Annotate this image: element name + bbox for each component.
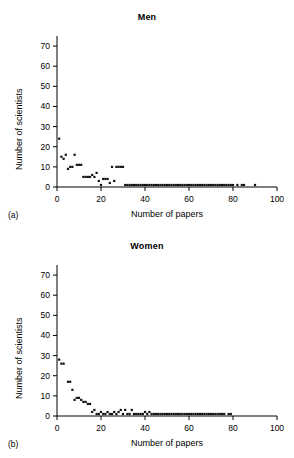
data-point	[184, 413, 186, 415]
chart-panel-women: Women 020406080100010203040506070 Number…	[0, 229, 294, 458]
data-point	[87, 403, 89, 405]
data-point	[65, 154, 67, 156]
data-point	[230, 413, 232, 415]
data-point	[120, 166, 122, 168]
x-tick-label-men: 0	[55, 194, 60, 204]
data-point	[170, 184, 172, 186]
data-point	[221, 184, 223, 186]
data-point	[214, 413, 216, 415]
y-tick-label-men: 70	[41, 41, 51, 51]
data-point	[96, 413, 98, 415]
data-point	[197, 413, 199, 415]
data-point	[78, 397, 80, 399]
data-point	[71, 166, 73, 168]
panel-letter-b: (b)	[8, 439, 18, 449]
data-point	[100, 411, 102, 413]
data-point	[104, 178, 106, 180]
data-point	[168, 413, 170, 415]
chart-panel-men: Men 020406080100010203040506070 Number o…	[0, 0, 294, 229]
data-point	[113, 411, 115, 413]
y-tick-label-women: 10	[41, 391, 51, 401]
data-point	[144, 411, 146, 413]
data-point	[155, 184, 157, 186]
data-point	[190, 184, 192, 186]
data-point	[126, 184, 128, 186]
data-point	[89, 176, 91, 178]
data-point	[109, 413, 111, 415]
x-tick-label-women: 80	[228, 423, 238, 433]
data-point	[89, 403, 91, 405]
data-point	[151, 184, 153, 186]
data-point	[80, 164, 82, 166]
data-point	[201, 413, 203, 415]
data-point	[179, 184, 181, 186]
data-point	[60, 363, 62, 365]
data-point	[146, 413, 148, 415]
data-point	[146, 184, 148, 186]
y-tick-label-women: 30	[41, 351, 51, 361]
data-point	[142, 184, 144, 186]
data-point	[188, 184, 190, 186]
y-tick-label-men: 50	[41, 81, 51, 91]
data-point	[203, 184, 205, 186]
y-tick-label-men: 10	[41, 162, 51, 172]
data-point	[82, 176, 84, 178]
data-point	[142, 413, 144, 415]
data-point	[223, 184, 225, 186]
y-tick-label-men: 60	[41, 61, 51, 71]
data-point	[153, 413, 155, 415]
data-point	[208, 413, 210, 415]
data-point	[93, 409, 95, 411]
data-point	[188, 413, 190, 415]
panel-letter-a: (a)	[8, 210, 18, 220]
data-point	[217, 184, 219, 186]
data-point	[91, 174, 93, 176]
data-point	[140, 184, 142, 186]
data-point	[214, 184, 216, 186]
y-tick-label-men: 20	[41, 142, 51, 152]
y-axis-title-women: Number of scientists	[14, 317, 24, 399]
data-point	[98, 413, 100, 415]
data-point	[228, 413, 230, 415]
data-point	[148, 184, 150, 186]
data-point	[98, 180, 100, 182]
x-tick-label-men: 60	[184, 194, 194, 204]
data-point	[199, 413, 201, 415]
data-point	[173, 413, 175, 415]
y-tick-label-men: 30	[41, 122, 51, 132]
x-tick-label-women: 100	[270, 423, 284, 433]
data-point	[109, 182, 111, 184]
data-point	[212, 413, 214, 415]
data-point	[76, 397, 78, 399]
y-tick-label-women: 20	[41, 371, 51, 381]
y-tick-label-men: 0	[45, 182, 50, 192]
y-tick-label-women: 40	[41, 330, 51, 340]
data-point	[137, 184, 139, 186]
data-point	[157, 413, 159, 415]
data-point	[126, 413, 128, 415]
data-point	[197, 184, 199, 186]
data-point	[184, 184, 186, 186]
data-point	[78, 164, 80, 166]
data-point	[63, 158, 65, 160]
data-point	[162, 413, 164, 415]
data-point	[120, 409, 122, 411]
y-tick-label-women: 70	[41, 270, 51, 280]
data-points-men	[58, 138, 256, 187]
data-point	[208, 184, 210, 186]
data-point	[241, 184, 243, 186]
data-point	[69, 381, 71, 383]
data-point	[63, 363, 65, 365]
data-point	[254, 184, 256, 186]
data-point	[122, 413, 124, 415]
data-point	[58, 138, 60, 140]
y-tick-label-women: 60	[41, 290, 51, 300]
y-tick-label-women: 50	[41, 310, 51, 320]
data-point	[195, 413, 197, 415]
data-point	[85, 176, 87, 178]
data-point	[111, 413, 113, 415]
data-point	[168, 184, 170, 186]
data-point	[67, 381, 69, 383]
data-point	[60, 156, 62, 158]
data-point	[135, 184, 137, 186]
